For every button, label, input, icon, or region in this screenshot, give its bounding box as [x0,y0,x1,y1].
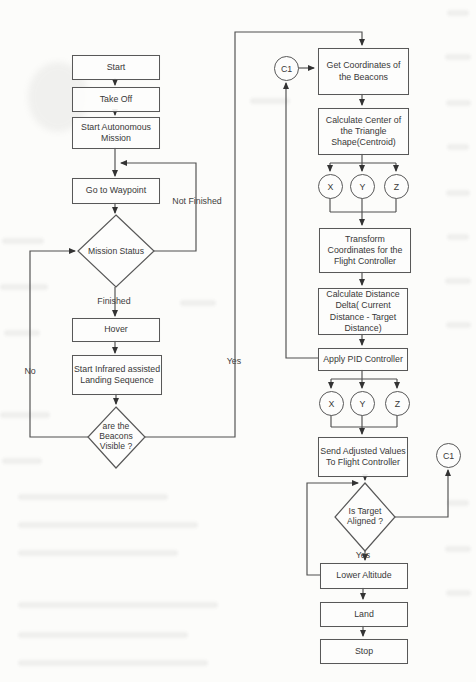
node-start-infrared-landing: Start Infrared assisted Landing Sequence [72,355,162,395]
node-start: Start [72,55,160,80]
node-apply-pid: Apply PID Controller [318,348,408,371]
axis-circle-y-top: Y [350,174,375,199]
node-calculate-center: Calculate Center of the Triangle Shape(C… [318,108,409,155]
node-get-coordinates: Get Coordinates of the Beacons [318,48,409,95]
node-land: Land [320,602,408,627]
node-send-adjusted-values: Send Adjusted Values To Flight Controlle… [318,437,408,477]
node-stop: Stop [320,639,408,664]
decision-mission-status-label: Mission Status [78,246,154,256]
node-start-autonomous-mission: Start Autonomous Mission [72,117,160,149]
edge-label-no: No [18,366,42,376]
node-transform-coordinates: Transform Coordinates for the Flight Con… [319,228,411,273]
decision-beacons-visible-label: are the Beacons Visible ? [86,421,146,451]
node-lower-altitude: Lower Altitude [320,563,408,589]
edge-label-yes-beacons: Yes [221,356,247,366]
axis-circle-x-bottom: X [319,391,344,416]
node-hover: Hover [72,318,160,342]
axis-circle-z-bottom: Z [385,391,410,416]
edge-label-not-finished: Not Finished [162,196,232,206]
scanned-flowchart-page: Start Take Off Start Autonomous Mission … [0,0,476,682]
node-calculate-distance: Calculate Distance Delta( Current Distan… [318,288,408,335]
axis-circle-y-bottom: Y [350,391,375,416]
connector-c1-right: C1 [436,443,461,468]
edge-label-finished: Finished [88,296,140,306]
connector-c1-top: C1 [274,56,299,81]
axis-circle-x-top: X [318,174,343,199]
axis-circle-z-top: Z [384,174,409,199]
node-take-off: Take Off [72,87,160,112]
node-go-to-waypoint: Go to Waypoint [72,178,160,204]
edge-label-yes-aligned: Yes [350,550,376,560]
decision-is-target-aligned-label: Is Target Aligned ? [335,506,395,526]
